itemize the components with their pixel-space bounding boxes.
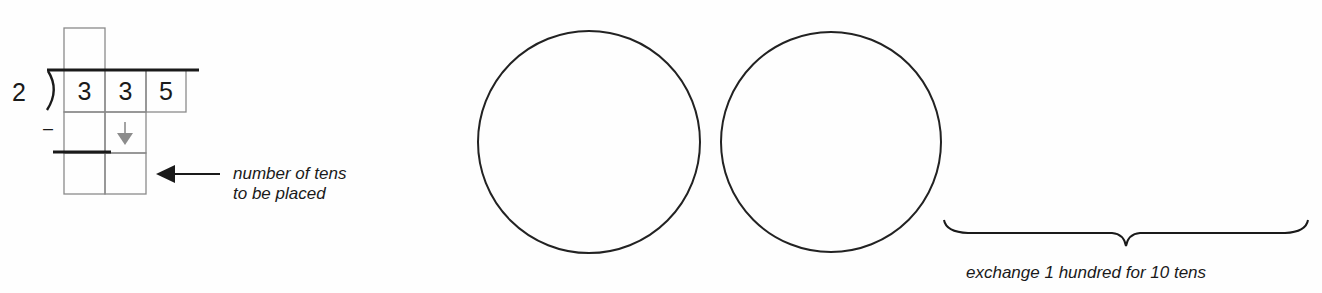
exchange-label: exchange 1 hundred for 10 tens [966,262,1206,283]
tens-label-line1: number of tens [233,163,346,184]
division-bracket [47,71,54,110]
division-diagram [0,0,1322,293]
left-arrow-icon [156,165,220,183]
result-cell-1 [64,153,105,194]
minus-sign: – [43,118,53,139]
quotient-cell [64,28,105,70]
dividend-digit-hundreds: 3 [64,77,105,106]
circle-left [478,31,700,253]
subtract-cell-1 [64,112,105,153]
dividend-digit-tens: 3 [105,77,146,106]
circle-right [721,32,941,252]
divisor: 2 [12,78,26,107]
curly-brace [944,220,1308,246]
tens-label-line2: to be placed [233,183,326,204]
dividend-digit-ones: 5 [146,77,186,106]
bring-down-arrow-icon [117,122,133,145]
result-cell-2 [105,153,146,194]
